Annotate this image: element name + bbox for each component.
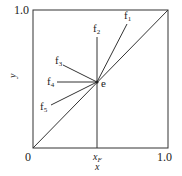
- f3-line: [63, 65, 97, 82]
- x-axis-label: x: [94, 161, 100, 172]
- f4-label: f4: [47, 75, 55, 89]
- f1-label: f1: [124, 9, 132, 23]
- x-max-label: 1.0: [157, 150, 172, 164]
- xy-diagram: 1.0 0 1.0 xF x y e f1 f2 f3 f4 f5: [0, 0, 182, 176]
- f2-label: f2: [93, 22, 101, 36]
- f5-line: [51, 82, 97, 105]
- point-e-marker: [95, 80, 98, 83]
- origin-label: 0: [25, 150, 31, 164]
- f5-label: f5: [40, 100, 48, 114]
- point-e-label: e: [101, 77, 106, 89]
- y-axis-label: y: [7, 73, 18, 79]
- f3-label: f3: [55, 54, 63, 68]
- f1-line: [97, 24, 127, 82]
- y-max-label: 1.0: [14, 3, 29, 17]
